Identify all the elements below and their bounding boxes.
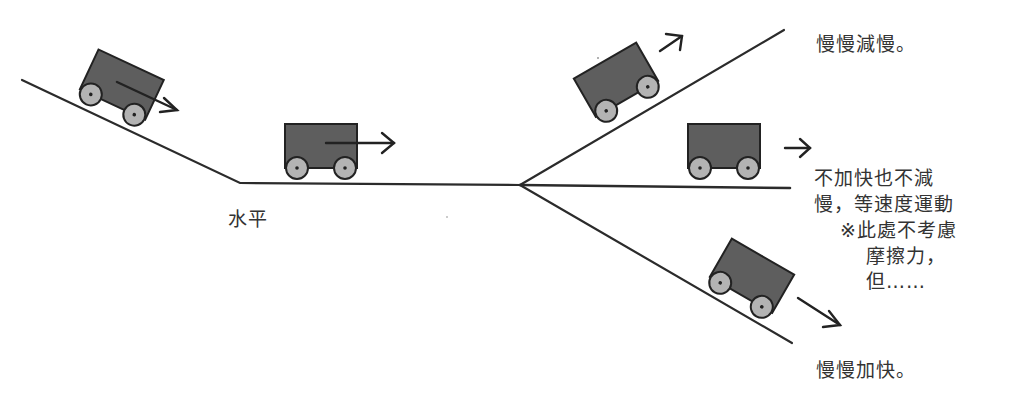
- arrow-up-right-icon: [660, 34, 682, 51]
- label-level-line1: 不加快也不減: [814, 166, 934, 190]
- cart-downhill-right: [704, 239, 794, 323]
- label-level-line2: 慢，等速度運動: [814, 192, 954, 216]
- cart-uphill: [574, 43, 664, 127]
- arrow-down-right-icon-2: [798, 298, 840, 327]
- label-note-line3: 但……: [866, 269, 926, 293]
- label-note-line1: ※此處不考慮: [840, 218, 957, 242]
- cart-downhill-left: [75, 49, 163, 129]
- label-downhill: 慢慢加快。: [816, 358, 916, 382]
- cart-level-right: [688, 124, 760, 179]
- label-horizontal: 水平: [228, 207, 268, 231]
- arrow-right-icon-2: [785, 139, 810, 157]
- cart-level: [285, 124, 357, 179]
- label-note-line2: 摩擦力，: [866, 244, 946, 268]
- middle-branch-track: [520, 185, 790, 188]
- label-uphill: 慢慢減慢。: [816, 32, 916, 56]
